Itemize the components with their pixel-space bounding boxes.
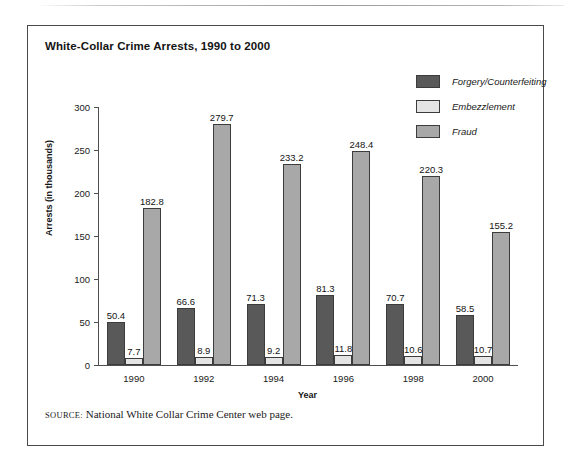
bar-value-label: 11.8 xyxy=(335,343,353,354)
bar-group: 50.47.7182.81990 xyxy=(107,107,161,365)
bar-group: 81.311.8248.41996 xyxy=(316,107,370,365)
x-axis-tick-label: 1996 xyxy=(333,373,354,384)
bar-value-label: 8.9 xyxy=(197,345,210,356)
figure-frame: White-Collar Crime Arrests, 1990 to 2000… xyxy=(27,25,544,446)
y-axis-tick-label: 0 xyxy=(85,360,90,371)
source-label: SOURCE: xyxy=(45,410,83,420)
bar[interactable]: 58.5 xyxy=(456,315,474,365)
x-axis-tick-label: 1994 xyxy=(263,373,284,384)
bar[interactable]: 10.6 xyxy=(404,356,422,365)
bar[interactable]: 220.3 xyxy=(422,176,440,365)
y-axis-tick-label: 150 xyxy=(74,231,90,242)
y-axis-tick-label: 100 xyxy=(74,274,90,285)
chart-title: White-Collar Crime Arrests, 1990 to 2000 xyxy=(45,40,270,52)
bar[interactable]: 233.2 xyxy=(283,164,301,365)
x-axis-tick-label: 2000 xyxy=(473,373,494,384)
legend-swatch xyxy=(416,75,440,88)
bar[interactable]: 81.3 xyxy=(316,295,334,365)
bar-value-label: 9.2 xyxy=(267,345,280,356)
bar[interactable]: 66.6 xyxy=(177,308,195,365)
x-axis-tick-label: 1990 xyxy=(123,373,144,384)
y-axis-tick-label: 250 xyxy=(74,145,90,156)
y-axis-title: Arrests (in thousands) xyxy=(44,140,54,236)
bar[interactable]: 155.2 xyxy=(492,232,510,365)
bar-value-label: 220.3 xyxy=(419,164,443,175)
bar[interactable]: 182.8 xyxy=(143,208,161,365)
source-note: SOURCE: National White Collar Crime Cent… xyxy=(45,408,293,420)
page-top-rule xyxy=(36,5,564,6)
bar-value-label: 7.7 xyxy=(127,346,140,357)
bar-group: 71.39.2233.21994 xyxy=(247,107,301,365)
bar[interactable]: 10.7 xyxy=(474,356,492,365)
bar[interactable]: 8.9 xyxy=(195,357,213,365)
bar[interactable]: 71.3 xyxy=(247,304,265,365)
bar-value-label: 10.7 xyxy=(474,344,493,355)
bar[interactable]: 9.2 xyxy=(265,357,283,365)
x-axis-title: Year xyxy=(98,390,517,400)
bar-value-label: 10.6 xyxy=(404,344,423,355)
bar-group: 58.510.7155.22000 xyxy=(456,107,510,365)
y-axis-tick-label: 50 xyxy=(79,317,90,328)
bar-value-label: 50.4 xyxy=(107,310,126,321)
source-text: National White Collar Crime Center web p… xyxy=(83,408,293,420)
y-axis-tick xyxy=(94,107,99,108)
bar[interactable]: 248.4 xyxy=(352,151,370,365)
bar-value-label: 182.8 xyxy=(140,196,164,207)
bar-value-label: 233.2 xyxy=(280,152,304,163)
bar-value-label: 155.2 xyxy=(489,220,513,231)
y-axis-tick xyxy=(94,150,99,151)
bar[interactable]: 7.7 xyxy=(125,358,143,365)
bar-value-label: 66.6 xyxy=(177,296,196,307)
bar[interactable]: 279.7 xyxy=(213,124,231,365)
bar-group: 66.68.9279.71992 xyxy=(177,107,231,365)
bar[interactable]: 11.8 xyxy=(334,355,352,365)
x-axis-tick-label: 1998 xyxy=(403,373,424,384)
y-axis-tick-label: 200 xyxy=(74,188,90,199)
bar-group: 70.710.6220.31998 xyxy=(386,107,440,365)
bar-value-label: 71.3 xyxy=(246,292,265,303)
y-axis-tick xyxy=(94,322,99,323)
y-axis-tick xyxy=(94,193,99,194)
bar-value-label: 70.7 xyxy=(386,292,405,303)
bar-value-label: 81.3 xyxy=(316,283,335,294)
y-axis-tick xyxy=(94,279,99,280)
bar-value-label: 279.7 xyxy=(210,112,234,123)
y-axis-tick xyxy=(94,365,99,366)
legend-label: Forgery/Counterfeiting xyxy=(452,76,547,87)
bar-value-label: 248.4 xyxy=(350,139,374,150)
x-axis-tick-label: 1992 xyxy=(193,373,214,384)
plot-area: 05010015020025030050.47.7182.8199066.68.… xyxy=(98,107,518,366)
bar[interactable]: 70.7 xyxy=(386,304,404,365)
legend-item: Forgery/Counterfeiting xyxy=(416,70,534,92)
y-axis-tick xyxy=(94,236,99,237)
bar[interactable]: 50.4 xyxy=(107,322,125,365)
y-axis-tick-label: 300 xyxy=(74,102,90,113)
bar-value-label: 58.5 xyxy=(456,303,475,314)
